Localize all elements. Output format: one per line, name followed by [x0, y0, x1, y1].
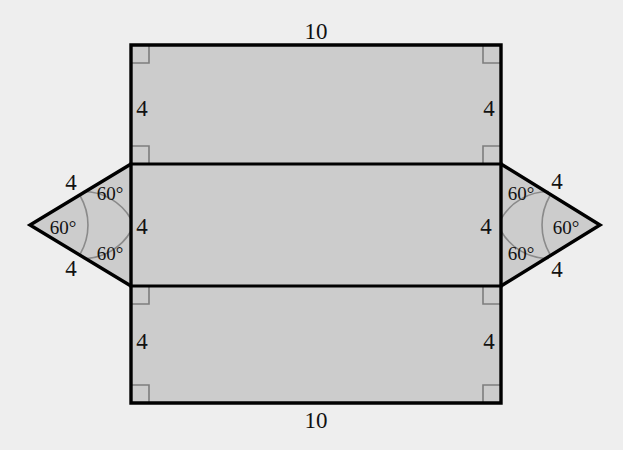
label-left-triangle-upper-side: 4 — [65, 171, 77, 194]
geometry-canvas — [0, 0, 623, 450]
label-top-width: 10 — [305, 20, 328, 43]
label-right-triangle-lower-side: 4 — [551, 258, 563, 281]
label-right-triangle-angle-bottom: 60° — [508, 244, 535, 263]
label-right-middle-height: 4 — [480, 215, 492, 238]
label-left-triangle-angle-bottom: 60° — [97, 244, 124, 263]
label-left-lower-height: 4 — [136, 330, 148, 353]
label-right-triangle-angle-top: 60° — [508, 184, 535, 203]
label-left-triangle-angle-top: 60° — [97, 184, 124, 203]
label-right-triangle-upper-side: 4 — [551, 170, 563, 193]
shape-fills — [30, 45, 600, 403]
main-rectangle-fill — [131, 45, 501, 403]
geometry-figure: 10 10 4 4 4 4 4 4 4 4 4 4 60° 60° 60° 60… — [0, 0, 623, 450]
label-left-upper-height: 4 — [136, 97, 148, 120]
label-bottom-width: 10 — [305, 409, 328, 432]
label-right-upper-height: 4 — [483, 97, 495, 120]
label-left-triangle-lower-side: 4 — [65, 257, 77, 280]
label-right-triangle-angle-apex: 60° — [553, 218, 580, 237]
label-right-lower-height: 4 — [483, 330, 495, 353]
label-left-triangle-angle-apex: 60° — [50, 218, 77, 237]
label-left-middle-height: 4 — [136, 215, 148, 238]
